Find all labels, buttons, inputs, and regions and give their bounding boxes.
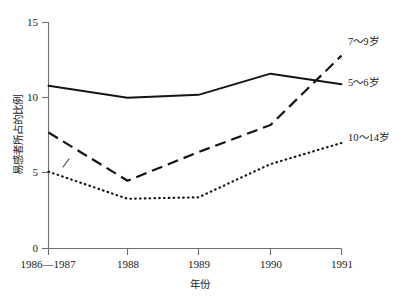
y-tick-label-0: 0: [33, 242, 39, 254]
x-axis-title: 年份: [190, 278, 211, 290]
y-tick-label-5: 5: [33, 166, 39, 178]
series-label-5-6: 5～6岁: [348, 76, 379, 88]
x-tick-label-1989: 1989: [188, 258, 211, 270]
y-tick-label-10: 10: [27, 91, 39, 103]
x-tick-label-1986-1987: 1986—1987: [21, 258, 77, 270]
line-chart: 15 10 5 0 1986—1987 1988 1989 1990 1991 …: [0, 0, 401, 302]
x-tick-label-1988: 1988: [117, 258, 140, 270]
chart-container: 15 10 5 0 1986—1987 1988 1989 1990 1991 …: [0, 0, 401, 302]
series-label-10-14: 10～14岁: [348, 131, 389, 143]
series-label-7-9: 7～9岁: [348, 35, 379, 47]
y-axis-title: 易感者所占的比例: [12, 95, 24, 175]
y-tick-label-15: 15: [27, 16, 39, 28]
x-tick-label-1990: 1990: [260, 258, 283, 270]
x-tick-label-1991: 1991: [331, 258, 353, 270]
